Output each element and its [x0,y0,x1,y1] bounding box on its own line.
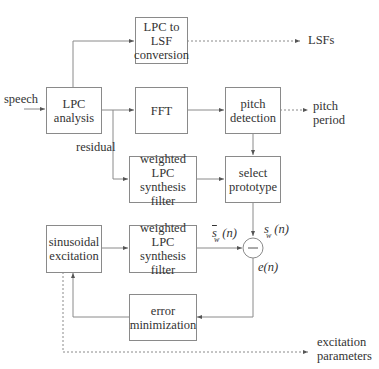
fft-block: FFT [135,87,188,134]
excitation-parameters-label: excitation parameters [317,335,372,363]
label-line: excitation [317,335,372,349]
block-text: FFT [151,104,173,118]
weighted-lpc-synthesis-filter-top-block: weighted LPC synthesis filter [129,156,197,203]
block-text: pitch [241,97,266,111]
block-text: minimization [130,318,197,332]
error-signal-label: e(n) [258,260,278,274]
error-minimization-block: error minimization [129,294,197,341]
block-text: LPC [63,97,86,111]
subscript-w: w [266,231,271,240]
lpc-to-lsf-block: LPC to LSF conversion [135,17,188,64]
symbol-arg: (n) [222,226,237,240]
label-line: pitch [313,99,345,113]
block-text: prototype [229,180,277,194]
pitch-detection-block: pitch detection [225,87,281,134]
block-text: weighted [140,152,186,166]
block-text: conversion [134,48,189,62]
block-text: analysis [54,111,94,125]
block-text: sinusoidal [49,235,100,249]
block-text: filter [151,263,175,277]
label-line: period [313,113,345,127]
sinusoidal-excitation-block: sinusoidal excitation [46,225,102,273]
synthesized-signal-label: sw(n) [212,226,237,242]
block-text: LSF [151,34,173,48]
target-signal-label: sw(n) [264,222,289,238]
weighted-lpc-synthesis-filter-bottom-block: weighted LPC synthesis filter [129,225,197,273]
residual-label: residual [76,140,116,154]
block-text: filter [151,194,175,208]
label-line: parameters [317,349,372,363]
block-text: excitation [49,249,98,263]
block-text: select [239,166,267,180]
lsfs-label: LSFs [308,33,334,47]
block-text: LPC synthesis [130,166,196,194]
block-text: weighted [140,221,186,235]
block-text: error [151,304,175,318]
block-text: LPC synthesis [130,235,196,263]
block-text: detection [230,111,276,125]
speech-label: speech [4,92,38,106]
lpc-analysis-block: LPC analysis [46,87,102,134]
select-prototype-block: select prototype [225,156,281,203]
block-text: LPC to [144,20,180,34]
subscript-w: w [214,235,219,244]
pitch-period-label: pitch period [313,99,345,127]
symbol-arg: (n) [274,222,289,236]
